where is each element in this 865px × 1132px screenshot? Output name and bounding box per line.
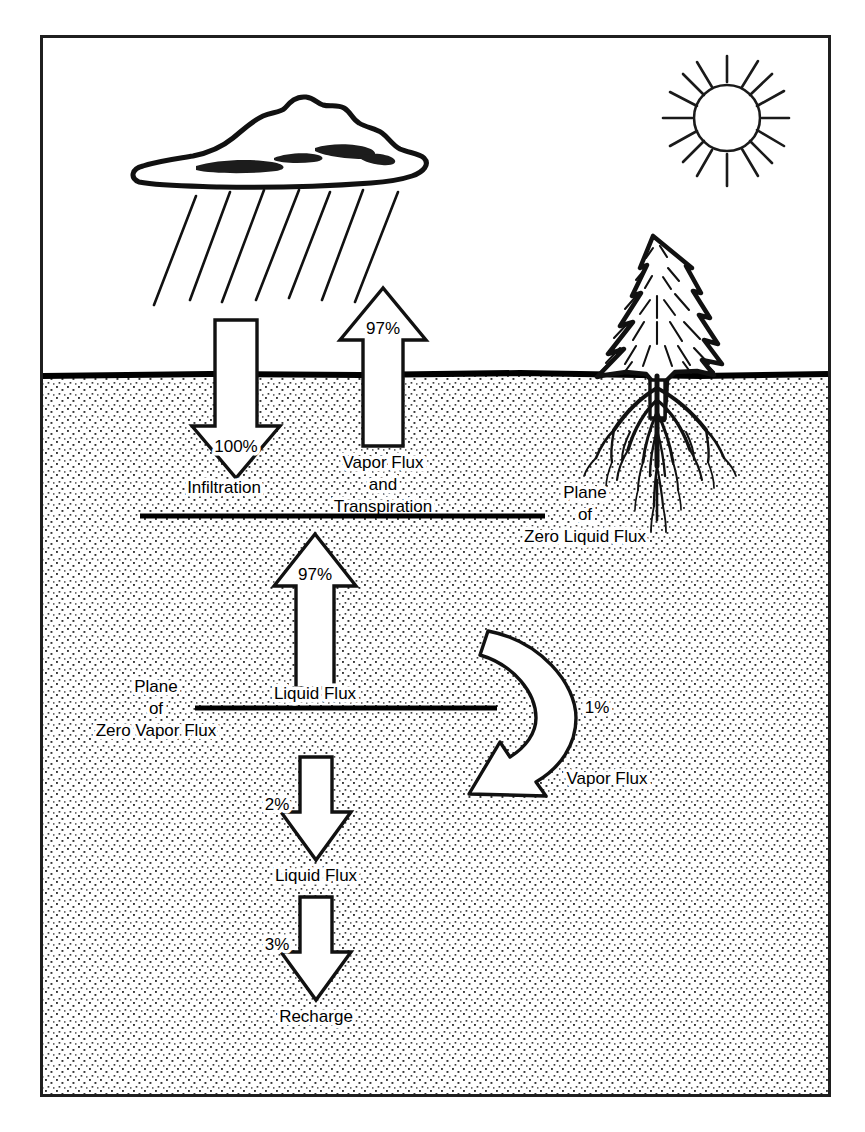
recharge-label: Recharge: [279, 1007, 353, 1026]
infiltration-percent: 100%: [214, 437, 257, 456]
plane-liquid-label-line3: Zero Liquid Flux: [524, 527, 646, 546]
plane-vapor-label-line3: Zero Vapor Flux: [96, 721, 217, 740]
liquid-flux-down-percent: 2%: [265, 795, 290, 814]
liquid-flux-mid-label: Liquid Flux: [274, 684, 357, 703]
figure-canvas: 100% Infiltration 97% Vapor Flux and Tra…: [0, 0, 865, 1132]
vapor-flux-label-line2: and: [369, 475, 397, 494]
vapor-flux-curved-label: Vapor Flux: [567, 769, 648, 788]
plane-liquid-label-line2: of: [578, 505, 592, 524]
plane-liquid-label-line1: Plane: [563, 483, 606, 502]
recharge-percent: 3%: [265, 935, 290, 954]
liquid-flux-up-percent: 97%: [298, 565, 332, 584]
infiltration-label: Infiltration: [187, 478, 261, 497]
vapor-flux-curved-percent: 1%: [585, 698, 610, 717]
plane-vapor-label-line1: Plane: [134, 677, 177, 696]
vapor-transpiration-percent: 97%: [366, 319, 400, 338]
liquid-flux-lower-label: Liquid Flux: [275, 866, 358, 885]
soil-water-flux-diagram: 100% Infiltration 97% Vapor Flux and Tra…: [0, 0, 865, 1132]
vapor-flux-label-line1: Vapor Flux: [343, 453, 424, 472]
plane-vapor-label-line2: of: [149, 699, 163, 718]
